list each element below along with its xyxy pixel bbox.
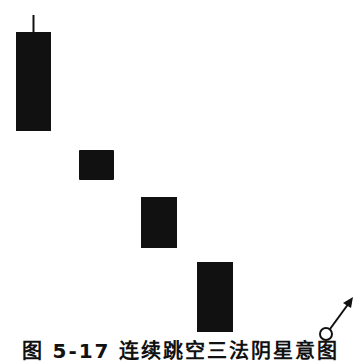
figure-caption: 图 5-17 连续跳空三法阴星意图 <box>0 339 361 363</box>
candle-3 <box>141 197 177 248</box>
candle-3-body <box>141 197 177 248</box>
signal-arrow-head <box>343 297 353 308</box>
reversal-up-arrow-icon <box>320 297 353 340</box>
candle-1-body <box>16 32 51 131</box>
candle-1 <box>16 15 51 131</box>
signal-arrow-shaft <box>330 303 349 329</box>
candle-2-body <box>79 150 114 180</box>
candle-4-body <box>197 262 233 332</box>
candle-2 <box>79 150 114 180</box>
candle-4 <box>197 262 233 332</box>
